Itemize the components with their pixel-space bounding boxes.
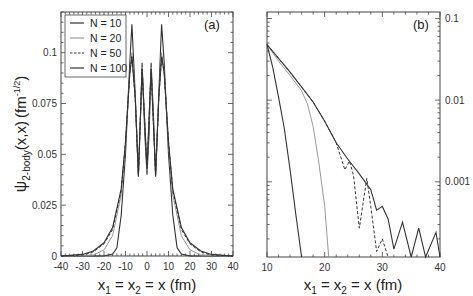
legend-label-n100: N = 100 bbox=[90, 62, 127, 74]
panel-b-curve-1 bbox=[267, 45, 329, 258]
svg-text:10: 10 bbox=[261, 262, 273, 273]
svg-text:0.01: 0.01 bbox=[445, 95, 465, 106]
figure: -40-30-20-1001020304000.0250.050.0750.1 … bbox=[0, 0, 473, 296]
panel-b-ticks: 102030400.0010.010.1 bbox=[261, 12, 470, 273]
legend: N = 10 N = 20 N = 50 N = 100 bbox=[65, 15, 127, 77]
svg-text:10: 10 bbox=[163, 261, 175, 272]
legend-label-n10: N = 10 bbox=[90, 17, 121, 29]
legend-label-n50: N = 50 bbox=[90, 47, 121, 59]
svg-text:20: 20 bbox=[319, 262, 331, 273]
panel-a-curve-3 bbox=[61, 57, 233, 256]
panel-a-x-axis-title: x1 = x2 = x (fm) bbox=[98, 276, 197, 296]
svg-text:30: 30 bbox=[206, 261, 218, 272]
svg-text:40: 40 bbox=[434, 262, 446, 273]
panel-b-curves bbox=[267, 45, 440, 258]
panel-a-curve-1 bbox=[61, 53, 233, 256]
svg-text:0.025: 0.025 bbox=[32, 200, 57, 211]
svg-text:-10: -10 bbox=[118, 261, 133, 272]
svg-text:0.1: 0.1 bbox=[445, 13, 459, 24]
panel-b-frame bbox=[267, 12, 440, 257]
svg-text:-20: -20 bbox=[97, 261, 112, 272]
svg-text:0.1: 0.1 bbox=[43, 47, 57, 58]
svg-text:20: 20 bbox=[184, 261, 196, 272]
panel-b-x-axis-title: x1 = x2 = x (fm) bbox=[304, 276, 403, 296]
svg-text:0: 0 bbox=[144, 261, 150, 272]
svg-text:0: 0 bbox=[51, 251, 57, 262]
svg-text:0.05: 0.05 bbox=[38, 149, 58, 160]
svg-text:-30: -30 bbox=[75, 261, 90, 272]
panel-b-curve-2 bbox=[267, 45, 388, 258]
panel-a-label: (a) bbox=[204, 17, 220, 32]
svg-text:0.001: 0.001 bbox=[445, 176, 470, 187]
panel-a-ticks: -40-30-20-1001020304000.0250.050.0750.1 bbox=[32, 12, 239, 272]
panel-b-curve-3 bbox=[267, 45, 440, 258]
panel-b-label: (b) bbox=[413, 17, 429, 32]
svg-text:40: 40 bbox=[227, 261, 239, 272]
panel-a-y-axis-title: ψ2-body(x,x)(fm-1/2) bbox=[12, 76, 32, 192]
svg-text:-40: -40 bbox=[54, 261, 69, 272]
svg-text:30: 30 bbox=[377, 262, 389, 273]
legend-label-n20: N = 20 bbox=[90, 32, 121, 44]
panel-b-curve-0 bbox=[267, 45, 302, 258]
svg-text:0.075: 0.075 bbox=[32, 98, 57, 109]
